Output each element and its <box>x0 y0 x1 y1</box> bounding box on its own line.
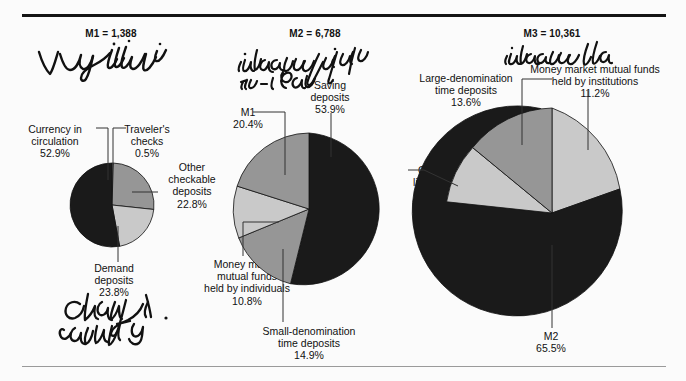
figure-canvas: M1 = 1,388 <box>0 0 686 381</box>
m1-pie-chart <box>0 0 230 381</box>
m1-panel: M1 = 1,388 <box>0 0 230 381</box>
m3-pie-chart <box>410 0 686 381</box>
m3-panel: M3 = 10,361 <box>410 0 686 381</box>
